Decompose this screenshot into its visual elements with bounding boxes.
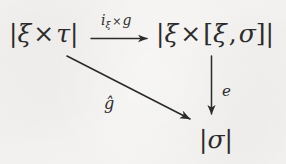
bar-close: | — [70, 19, 78, 48]
arrow-right-label: e — [222, 84, 231, 99]
symbol-sigma: σ — [207, 125, 224, 154]
comma: , — [227, 19, 239, 48]
symbol-xi: ξ — [17, 19, 31, 48]
symbol-xi-inner: ξ — [213, 19, 227, 48]
bar-close: | — [225, 125, 233, 154]
label-g: g — [122, 12, 131, 28]
times-operator: × — [31, 19, 56, 48]
label-times-operator: × — [111, 15, 122, 28]
commutative-diagram: |ξ×τ| |ξ×[ξ,σ]| |σ| iξ×g e ĝ — [0, 0, 286, 164]
bracket-close: ] — [256, 19, 266, 48]
symbol-xi: ξ — [164, 19, 178, 48]
symbol-sigma: σ — [239, 19, 256, 48]
bracket-open: [ — [203, 19, 213, 48]
node-xi-times-tau: |ξ×τ| — [9, 21, 78, 46]
node-xi-times-hom: |ξ×[ξ,σ]| — [156, 21, 274, 46]
arrow-diagonal-label: ĝ — [104, 96, 114, 112]
bar-close: | — [266, 19, 274, 48]
node-sigma: |σ| — [199, 127, 233, 152]
symbol-tau: τ — [56, 19, 70, 48]
arrow-top-label: iξ×g — [101, 13, 131, 30]
arrow-diagonal-line — [67, 56, 190, 119]
times-operator: × — [178, 19, 203, 48]
